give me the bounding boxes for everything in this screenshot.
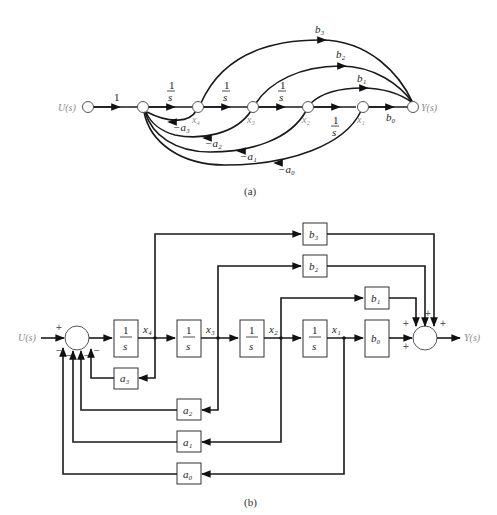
svg-text:+: + bbox=[425, 308, 431, 319]
svg-text:1: 1 bbox=[280, 79, 286, 91]
svg-text:−: − bbox=[66, 350, 72, 361]
svg-text:+: + bbox=[56, 322, 62, 333]
svg-text:s: s bbox=[249, 340, 253, 352]
svg-text:1: 1 bbox=[312, 324, 318, 336]
svg-text:a₁: a₁ bbox=[183, 436, 193, 448]
svg-text:+: + bbox=[440, 318, 446, 329]
svg-text:−: − bbox=[94, 345, 100, 356]
svg-text:b₁: b₁ bbox=[371, 292, 381, 304]
svg-text:b₃: b₃ bbox=[309, 228, 319, 240]
output-label: Y(s) bbox=[421, 102, 438, 114]
gain-1-over-s-x4: 1 s bbox=[167, 79, 175, 103]
label-x1: x₁ bbox=[356, 114, 365, 125]
gain-b1: b₁ bbox=[357, 72, 367, 84]
label-x2: x₂ bbox=[301, 114, 310, 125]
svg-text:1: 1 bbox=[186, 324, 192, 336]
gain-neg-a3: −a₃ bbox=[173, 121, 190, 133]
svg-text:1: 1 bbox=[333, 114, 339, 126]
svg-text:s: s bbox=[123, 340, 127, 352]
gain-neg-a2: −a₂ bbox=[205, 137, 222, 149]
signal-flow-graph: U(s) Y(s) 1 1 s 1 s 1 s 1 s x₄ x₃ x₂ x₁ … bbox=[58, 23, 438, 198]
svg-text:b₀: b₀ bbox=[371, 332, 381, 344]
block-diagram: U(s) + − − − − 1 s x₄ 1 s x₃ 1 s x₂ 1 s … bbox=[18, 223, 481, 509]
svg-text:+: + bbox=[403, 341, 409, 352]
node-sum bbox=[138, 102, 149, 113]
svg-text:1: 1 bbox=[249, 324, 255, 336]
gain-b2: b₂ bbox=[336, 48, 346, 60]
input-label-b: U(s) bbox=[18, 332, 36, 344]
state-x1: x₁ bbox=[331, 323, 341, 335]
gain-b3: b₃ bbox=[315, 23, 325, 35]
svg-text:s: s bbox=[168, 91, 172, 103]
svg-text:s: s bbox=[279, 91, 283, 103]
output-summing-junction bbox=[413, 326, 437, 350]
node-x3 bbox=[248, 102, 259, 113]
svg-text:s: s bbox=[223, 91, 227, 103]
state-x3: x₃ bbox=[205, 323, 215, 335]
gain-neg-a1: −a₁ bbox=[240, 150, 257, 162]
svg-text:1: 1 bbox=[224, 79, 230, 91]
gain-neg-a0: −a₀ bbox=[278, 163, 295, 175]
gain-1-over-s-x2: 1 s bbox=[278, 79, 286, 103]
svg-text:s: s bbox=[186, 340, 190, 352]
node-x2 bbox=[303, 102, 314, 113]
node-x1 bbox=[358, 102, 369, 113]
caption-b: (b) bbox=[244, 496, 257, 509]
diagram-canvas: U(s) Y(s) 1 1 s 1 s 1 s 1 s x₄ x₃ x₂ x₁ … bbox=[0, 0, 497, 515]
gain-1-over-s-x1: 1 s bbox=[331, 114, 339, 138]
svg-text:+: + bbox=[403, 318, 409, 329]
svg-text:a₃: a₃ bbox=[120, 372, 130, 384]
svg-text:s: s bbox=[332, 126, 336, 138]
branch-neg-a3 bbox=[147, 111, 196, 120]
caption-a: (a) bbox=[244, 185, 257, 198]
branch-b1 bbox=[311, 88, 413, 103]
state-x2: x₂ bbox=[268, 323, 278, 335]
node-input bbox=[83, 102, 94, 113]
gain-unit: 1 bbox=[114, 91, 120, 103]
input-label: U(s) bbox=[58, 102, 76, 114]
state-x4: x₄ bbox=[142, 323, 152, 335]
svg-text:−: − bbox=[56, 345, 62, 356]
svg-text:a₂: a₂ bbox=[183, 404, 193, 416]
output-label-b: Y(s) bbox=[464, 332, 481, 344]
gain-b0: b₀ bbox=[386, 111, 396, 123]
label-x4: x₄ bbox=[191, 114, 200, 125]
svg-text:−: − bbox=[84, 350, 90, 361]
node-output bbox=[408, 102, 419, 113]
gain-1-over-s-x3: 1 s bbox=[222, 79, 230, 103]
svg-text:1: 1 bbox=[169, 79, 175, 91]
branch-b3 bbox=[201, 40, 413, 103]
svg-text:b₂: b₂ bbox=[309, 260, 319, 272]
input-summing-junction bbox=[65, 326, 89, 350]
label-x3: x₃ bbox=[246, 114, 255, 125]
svg-text:a₀: a₀ bbox=[183, 468, 193, 480]
svg-text:s: s bbox=[312, 340, 316, 352]
svg-text:1: 1 bbox=[123, 324, 129, 336]
node-x4 bbox=[193, 102, 204, 113]
